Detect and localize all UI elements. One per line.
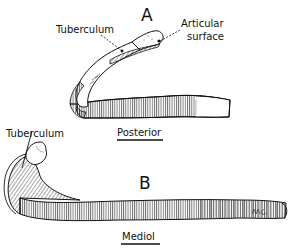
rib-diagram: A Tuberculum Articular surface Posterior… — [0, 0, 294, 249]
rib-a — [70, 30, 230, 118]
panel-b-letter: B — [139, 174, 151, 192]
rib-illustrations — [0, 0, 294, 249]
panel-a-letter: A — [141, 6, 153, 24]
articular-label-line2: surface — [187, 31, 224, 42]
articular-label-line1: Articular — [181, 18, 224, 29]
posterior-view-label: Posterior — [117, 127, 161, 138]
tuberculum-label-b: Tuberculum — [6, 128, 64, 139]
mediol-view-label: Mediol — [122, 231, 155, 242]
tuberculum-label-a: Tuberculum — [56, 24, 114, 35]
